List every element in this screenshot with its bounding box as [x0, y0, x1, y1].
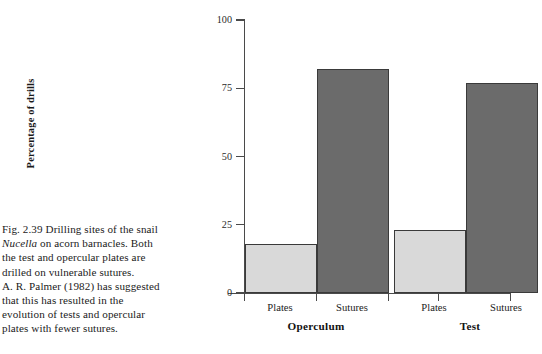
x-label-operculum-sutures: Sutures	[312, 301, 392, 314]
x-group-label-test: Test	[400, 320, 540, 332]
bar-operculum-sutures	[317, 69, 389, 293]
y-axis-title: Percentage of drills	[25, 49, 36, 199]
x-label-test-plates: Plates	[394, 301, 474, 314]
x-label-test-sutures: Sutures	[466, 301, 542, 314]
y-tick-100	[236, 19, 244, 20]
bar-operculum-plates	[245, 244, 317, 293]
x-tick-mid-test	[438, 293, 439, 301]
x-label-operculum-plates: Plates	[240, 301, 320, 314]
y-tick-label-50: 50	[196, 152, 232, 162]
x-tick-mid-operculum	[316, 293, 317, 301]
x-tick-left-operculum	[244, 293, 245, 301]
bar-test-sutures	[466, 83, 538, 293]
y-tick-25	[236, 224, 244, 225]
y-tick-label-25: 25	[196, 220, 232, 230]
y-tick-label-75: 75	[196, 83, 232, 93]
y-tick-50	[236, 156, 244, 157]
plot-area	[245, 20, 511, 293]
y-tick-75	[236, 88, 244, 89]
x-tick-right-test	[510, 293, 511, 301]
y-tick-label-100: 100	[196, 15, 232, 25]
y-tick-label-0: 0	[196, 288, 232, 298]
y-tick-0	[236, 292, 244, 293]
x-group-label-operculum: Operculum	[246, 320, 386, 332]
x-tick-right-operculum	[388, 293, 389, 301]
bar-test-plates	[394, 230, 466, 293]
